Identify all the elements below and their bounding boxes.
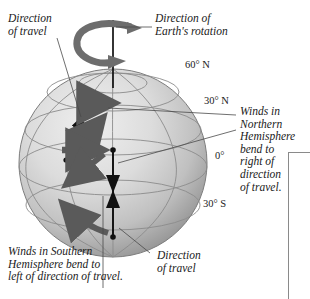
latitude-label-equator: 0° <box>215 150 224 161</box>
label-winds-southern-hemisphere: Winds in Southern Hemisphere bend to lef… <box>8 245 158 283</box>
latitude-label-thirty-south: 30° S <box>203 198 226 209</box>
label-direction-of-travel-top: Direction of travel <box>8 12 94 37</box>
label-direction-of-travel-bottom: Direction of travel <box>157 249 237 274</box>
label-direction-of-earths-rotation: Direction of Earth's rotation <box>155 12 265 37</box>
coriolis-diagram: Direction of travel Direction of Earth's… <box>0 0 310 299</box>
latitude-label-thirty-north: 30° N <box>204 95 229 106</box>
origin-dot-north <box>63 157 68 162</box>
latitude-label-sixty-north: 60° N <box>185 59 210 70</box>
right-margin-rule <box>288 152 310 299</box>
